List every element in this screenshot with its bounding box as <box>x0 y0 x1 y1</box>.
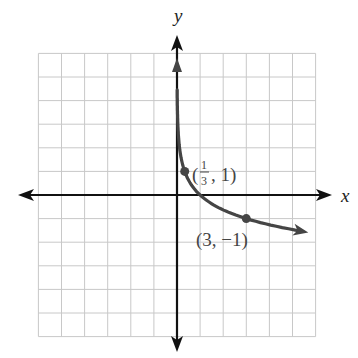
graph: x y ( 1 3 , 1) (3, −1) <box>0 0 358 358</box>
svg-text:, 1): , 1) <box>211 164 236 186</box>
point-one-third-1 <box>180 167 189 176</box>
svg-text:1: 1 <box>201 158 207 172</box>
log-curve <box>177 90 299 231</box>
axes <box>18 35 332 352</box>
svg-text:3: 3 <box>201 174 207 188</box>
curve-top-arrow-icon <box>172 58 182 72</box>
label-3-neg1: (3, −1) <box>196 229 248 251</box>
y-axis-label: y <box>172 5 183 26</box>
label-one-third-1: ( 1 3 , 1) <box>192 158 236 188</box>
x-axis-label: x <box>340 185 350 206</box>
svg-text:(: ( <box>192 164 198 186</box>
point-3-neg1 <box>242 214 251 223</box>
